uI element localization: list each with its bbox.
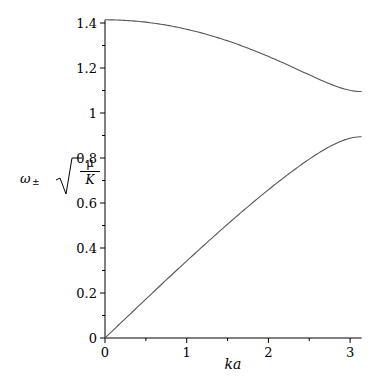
x-axis-label: ka [225,356,242,372]
y-tick-label: 1 [89,106,97,121]
x-tick-label: 3 [346,345,354,360]
fraction-denominator: K [80,173,100,187]
y-tick-label: 0 [89,331,97,346]
fraction-bar [80,171,100,172]
y-tick-label: 1.4 [76,16,97,31]
axes: 00.20.40.60.811.21.40123 [76,16,361,361]
x-tick-label: 1 [183,345,191,360]
y-tick-label: 0.6 [76,196,97,211]
x-tick-label: 2 [264,345,272,360]
fraction-numerator: μ [80,156,100,170]
y-tick-label: 0.4 [76,241,97,256]
plus-minus-subscript: ± [32,177,40,187]
omega-symbol: ω [20,171,31,186]
fraction: μ K [80,156,100,187]
optical-branch-curve [105,20,362,92]
y-tick-label: 1.2 [76,61,97,76]
y-axis-label: ω ± μ K [20,156,102,196]
y-tick-label: 0.2 [76,286,97,301]
acoustic-branch-curve [105,137,362,338]
x-tick-label: 0 [101,345,109,360]
curves [105,20,362,338]
sqrt-icon [54,156,82,196]
